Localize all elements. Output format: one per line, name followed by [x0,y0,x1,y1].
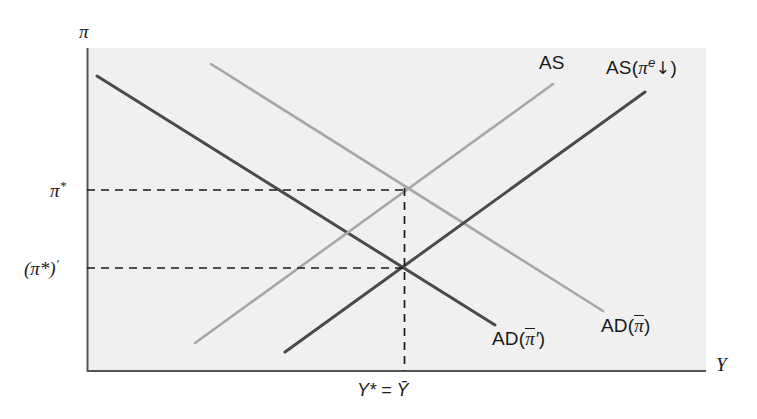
as-shifted-pi: π [638,57,648,78]
curve-label-ad-original: AD(π) [601,315,651,335]
y-axis-label: π [79,22,89,41]
as-shifted-superscript: e [648,55,656,70]
y-tick-pi-star-superscript: * [60,178,67,193]
ad-shifted-pi-bar: π [525,328,535,348]
curve-label-as-shifted: AS(πe↓) [606,56,677,78]
ad-original-suffix: ) [644,315,651,336]
y-tick-pi-star: π* [50,179,66,200]
curve-label-ad-shifted: AD(π′) [492,328,545,348]
y-tick-pi-star-prime: (π*)′ [24,257,59,278]
y-tick-pi-star-prime-symbol: (π*) [24,258,56,279]
ad-shifted-suffix: ) [539,328,546,349]
y-tick-pi-star-symbol: π [50,180,60,201]
x-tick-y-star: Y* = Ȳ [357,381,409,399]
arrow-down-icon: ↓ [656,58,671,78]
x-axis-label: Y [716,355,727,374]
ad-original-pi-bar: π [634,315,644,335]
y-tick-pi-star-prime-superscript: ′ [56,256,59,271]
figure-root: π Y π* (π*)′ Y* = Ȳ AS AS(πe↓) AD(π) AD(… [0,0,757,419]
as-shifted-suffix: ) [670,57,677,78]
ad-original-prefix: AD( [601,315,634,336]
curve-label-as-original: AS [539,53,565,72]
as-shifted-prefix: AS( [606,57,638,78]
ad-shifted-prefix: AD( [492,328,525,349]
